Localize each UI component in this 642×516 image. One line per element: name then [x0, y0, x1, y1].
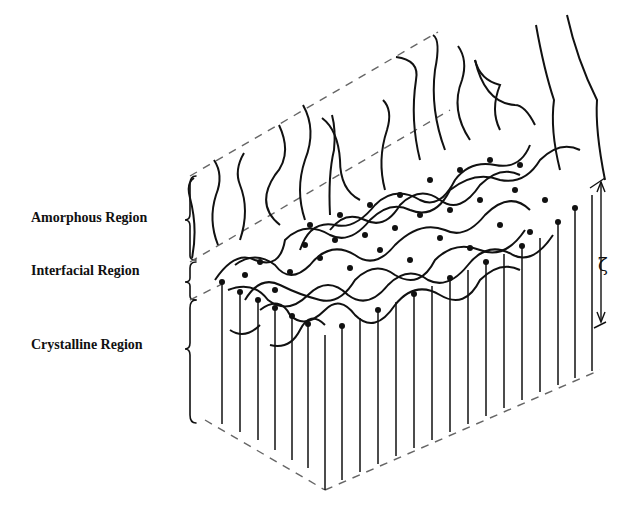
crystalline-stems — [222, 195, 592, 490]
interfacial-entanglement — [215, 145, 580, 346]
lamella-diagram — [0, 0, 642, 516]
amorphous-chains — [189, 15, 605, 258]
